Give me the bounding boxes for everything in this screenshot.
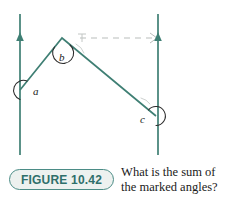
- angle-arc-c: [149, 107, 166, 126]
- figure-number-label: FIGURE 10.42: [21, 173, 102, 187]
- figure-caption-row: FIGURE 10.42 What is the sum of the mark…: [0, 158, 242, 210]
- angle-label-a: a: [33, 85, 39, 97]
- angle-label-b: b: [59, 51, 65, 63]
- figure-caption-text: What is the sum of the marked angles?: [121, 165, 217, 195]
- caption-line-2: the marked angles?: [121, 180, 217, 195]
- figure-container: a b c FIGURE 10.42 What is the sum of th…: [0, 0, 242, 210]
- angle-label-c: c: [140, 113, 145, 125]
- left-line-arrowhead-icon: [16, 32, 24, 41]
- transversal-polyline: [20, 38, 156, 116]
- angle-guide-arc-c: [141, 98, 150, 104]
- geometry-diagram: a b c: [0, 0, 242, 160]
- figure-number-badge: FIGURE 10.42: [9, 169, 114, 190]
- caption-line-1: What is the sum of: [121, 165, 217, 180]
- diagram-svg: a b c: [0, 0, 242, 160]
